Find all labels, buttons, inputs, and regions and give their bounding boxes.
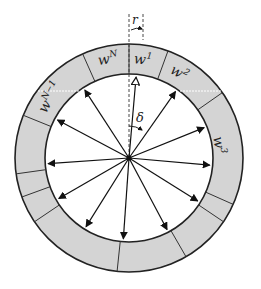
delta-label: δ	[136, 110, 144, 125]
center-point	[126, 155, 131, 160]
ring-diagram: r δ wN w1 w2 w3 wN−1	[0, 0, 261, 289]
r-arc-icon	[131, 28, 142, 30]
r-label: r	[132, 13, 139, 27]
